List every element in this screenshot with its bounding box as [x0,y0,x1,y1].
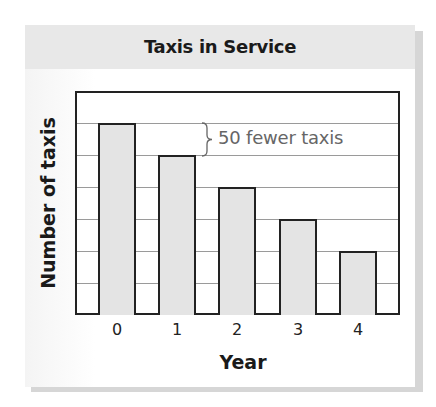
bar-year-4 [339,251,377,315]
annotation-label: 50 fewer taxis [218,127,343,148]
x-tick-label: 1 [157,320,197,339]
bar-year-1 [158,155,196,315]
bar-year-0 [98,123,136,315]
bar-year-3 [279,219,317,315]
chart-title: Taxis in Service [25,25,415,69]
y-axis-label: Number of taxis [36,113,60,293]
x-tick-label: 3 [278,320,318,339]
x-axis-label: Year [183,351,303,373]
bar-year-2 [218,187,256,315]
x-tick-label: 0 [97,320,137,339]
x-tick-label: 4 [338,320,378,339]
brace-icon [201,122,215,157]
x-tick-label: 2 [217,320,257,339]
